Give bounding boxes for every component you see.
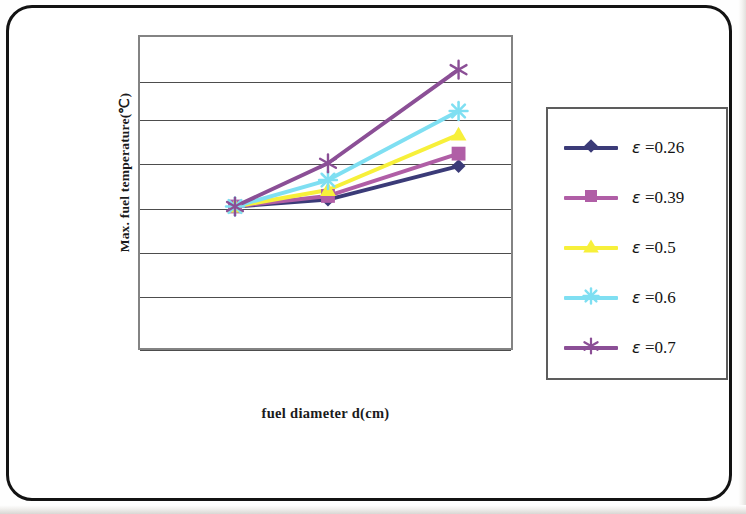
asterisk-marker-icon	[564, 339, 618, 357]
legend-item-label: ε =0.26	[632, 138, 684, 158]
legend-item[interactable]: ε =0.7	[548, 323, 726, 373]
legend-item-label: ε =0.6	[632, 288, 676, 308]
square-marker-icon	[564, 189, 618, 207]
y-axis-title-container: Max. fuel temperature(℃)	[62, 60, 88, 360]
series-plot	[140, 37, 511, 348]
scan-edge-right	[738, 0, 746, 514]
chart-legend: ε =0.26 ε =0.39 ε =0.5	[546, 107, 728, 380]
chart-plot-area	[138, 35, 513, 350]
scan-edge-bottom	[0, 505, 746, 514]
legend-item[interactable]: ε =0.6	[548, 273, 726, 323]
y-axis-title: Max. fuel temperature(℃)	[116, 43, 133, 303]
star-marker-icon	[564, 289, 618, 307]
legend-item[interactable]: ε =0.39	[548, 173, 726, 223]
triangle-marker-icon	[564, 239, 618, 257]
diamond-marker-icon	[564, 139, 618, 157]
legend-item[interactable]: ε =0.5	[548, 223, 726, 273]
gridline	[140, 350, 511, 351]
legend-item-label: ε =0.39	[632, 188, 684, 208]
x-axis-title: fuel diameter d(cm)	[138, 405, 513, 422]
legend-item[interactable]: ε =0.26	[548, 123, 726, 173]
legend-item-label: ε =0.7	[632, 338, 676, 358]
legend-item-label: ε =0.5	[632, 238, 676, 258]
